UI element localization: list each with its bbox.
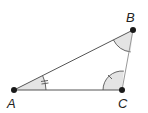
label-b: B	[126, 10, 135, 25]
label-a: A	[6, 96, 16, 111]
triangle-diagram: A B C	[0, 0, 148, 113]
triangle-svg: A B C	[0, 0, 148, 113]
point-c	[119, 87, 125, 93]
angle-c-fill	[103, 71, 124, 90]
label-c: C	[118, 96, 128, 111]
point-a	[11, 87, 17, 93]
point-b	[130, 27, 136, 33]
